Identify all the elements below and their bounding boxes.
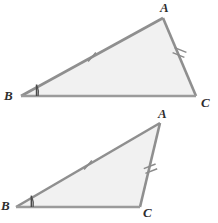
- geometry-figure: A B C A B C: [0, 0, 218, 223]
- triangle-top: [21, 18, 196, 96]
- triangle-top-fill: [21, 18, 196, 96]
- triangles-diagram: [0, 0, 218, 223]
- triangle-bottom-label-b: B: [1, 199, 10, 212]
- triangle-bottom: [16, 123, 160, 207]
- triangle-top-label-b: B: [4, 89, 13, 102]
- triangle-top-label-a: A: [160, 1, 169, 14]
- triangle-bottom-label-a: A: [158, 107, 167, 120]
- triangle-bottom-label-c: C: [143, 206, 152, 219]
- triangle-top-label-c: C: [201, 96, 210, 109]
